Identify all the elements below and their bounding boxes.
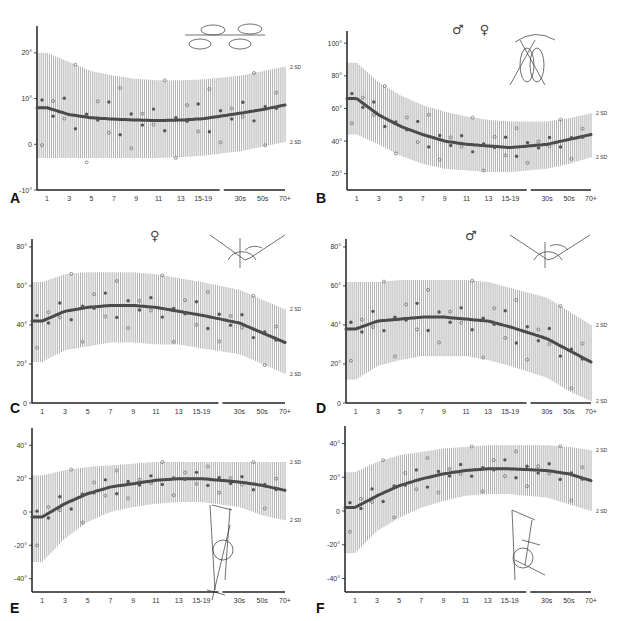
y-tick-label: -10°	[19, 187, 32, 194]
x-tick-label: 7	[112, 195, 116, 202]
chart-e: 40°20°0-20°-40°13579111315-1930s50s70+2 …	[0, 420, 310, 621]
x-tick-label: 5	[399, 195, 403, 202]
x-tick-label: 11	[462, 597, 469, 604]
x-tick-label: 11	[152, 408, 159, 415]
lower-2sd-label: 2 SD	[290, 517, 302, 523]
y-tick-label: -40°	[14, 575, 27, 582]
x-tick-label: 15-19	[193, 597, 211, 604]
x-tick-label: 50s	[257, 408, 269, 415]
y-tick-label: 60°	[331, 105, 342, 112]
y-tick-label: 0	[23, 509, 27, 516]
male-symbol: ♂	[465, 228, 477, 243]
x-tick-label: 15-19	[193, 408, 211, 415]
panel-c: 80°60°40°20°013579111315-1930s50s70+2 SD…	[0, 210, 310, 420]
chart-f: 40°20°0-20°-40°13579111315-1930s50s70+2 …	[310, 420, 619, 621]
panel-label-e: E	[10, 600, 19, 616]
upper-2sd-label: 2 SD	[290, 64, 302, 70]
x-tick-label: 9	[443, 195, 447, 202]
panel-label-b: B	[316, 190, 326, 206]
sex-symbols: ♂ ♀	[452, 22, 495, 37]
x-tick-label: 9	[442, 408, 446, 415]
x-tick-label: 70+	[585, 408, 597, 415]
y-tick-label: -20°	[327, 541, 340, 548]
x-tick-label: 70+	[279, 597, 291, 604]
x-tick-label: 5	[86, 597, 90, 604]
x-tick-label: 3	[377, 195, 381, 202]
upper-2sd-label: 2 SD	[290, 306, 302, 312]
y-tick-label: 0	[336, 508, 340, 515]
sd-band	[346, 280, 591, 401]
x-tick-label: 13	[175, 597, 183, 604]
x-tick-label: 13	[485, 195, 493, 202]
x-tick-label: 9	[134, 195, 138, 202]
y-tick-label: 100°	[328, 40, 343, 47]
x-tick-label: 3	[375, 597, 379, 604]
panel-b: 100°80°60°40°20°13579111315-1930s50s70+2…	[310, 0, 619, 210]
x-tick-label: 30s	[541, 597, 553, 604]
x-tick-label: 1	[40, 408, 44, 415]
x-tick-label: 15-19	[501, 408, 519, 415]
y-tick-label: 0	[337, 400, 341, 407]
hip-internal-rotation-icon	[510, 34, 555, 85]
y-tick-label: 0	[23, 400, 27, 407]
x-tick-label: 5	[398, 408, 402, 415]
transmalleolar-axis-icon	[512, 510, 545, 580]
panel-label-d: D	[316, 400, 326, 416]
x-tick-label: 9	[131, 597, 135, 604]
x-tick-label: 70+	[585, 195, 597, 202]
lower-2sd-label: 2 SD	[290, 371, 302, 377]
upper-2sd-label: 2 SD	[596, 447, 608, 453]
x-tick-label: 1	[355, 195, 359, 202]
x-tick-label: 5	[90, 195, 94, 202]
lower-2sd-label: 2 SD	[596, 154, 608, 160]
x-tick-label: 11	[463, 195, 470, 202]
x-tick-label: 9	[441, 597, 445, 604]
panel-f: 40°20°0-20°-40°13579111315-1930s50s70+2 …	[310, 420, 619, 621]
x-tick-label: 1	[354, 408, 358, 415]
panel-a: 20°10°0-10°13579111315-1930s50s70+2 SD2 …	[0, 0, 310, 210]
x-tick-label: 7	[420, 408, 424, 415]
x-tick-label: 15-19	[501, 597, 519, 604]
x-tick-label: 30s	[541, 195, 553, 202]
y-tick-label: 40°	[331, 138, 342, 145]
panel-label-c: C	[10, 400, 20, 416]
x-tick-label: 11	[462, 408, 469, 415]
x-tick-label: 13	[177, 195, 185, 202]
x-tick-label: 50s	[563, 597, 575, 604]
y-tick-label: 20°	[330, 360, 341, 367]
y-tick-label: 40°	[16, 442, 27, 449]
y-tick-label: -40°	[327, 575, 340, 582]
x-tick-label: 15-19	[194, 195, 212, 202]
x-tick-label: 50s	[563, 195, 575, 202]
x-tick-label: 1	[40, 597, 44, 604]
panel-label-f: F	[316, 600, 325, 616]
upper-2sd-label: 2 SD	[290, 459, 302, 465]
x-tick-label: 13	[484, 597, 492, 604]
panel-e: 40°20°0-20°-40°13579111315-1930s50s70+2 …	[0, 420, 310, 621]
hip-external-rotation-icon	[210, 235, 285, 268]
panel-label-a: A	[10, 190, 20, 206]
lower-2sd-label: 2 SD	[596, 508, 608, 514]
x-tick-label: 5	[86, 408, 90, 415]
x-tick-label: 3	[63, 597, 67, 604]
chart-a: 20°10°0-10°13579111315-1930s50s70+2 SD2 …	[0, 0, 310, 210]
female-symbol: ♀	[150, 228, 160, 243]
x-tick-label: 3	[67, 195, 71, 202]
x-tick-label: 9	[131, 408, 135, 415]
y-tick-label: 20°	[329, 474, 340, 481]
y-tick-label: 80°	[330, 243, 341, 250]
x-tick-label: 7	[421, 195, 425, 202]
y-tick-label: 0	[28, 141, 32, 148]
y-tick-label: 20°	[21, 49, 32, 56]
thigh-foot-angle-icon	[207, 505, 233, 600]
y-tick-label: 40°	[330, 321, 341, 328]
x-tick-label: 1	[353, 597, 357, 604]
x-tick-label: 70+	[279, 408, 291, 415]
panel-d: 80°60°40°20°013579111315-1930s50s70+2 SD…	[310, 210, 619, 420]
x-tick-label: 7	[419, 597, 423, 604]
x-tick-label: 15-19	[502, 195, 520, 202]
x-tick-label: 3	[376, 408, 380, 415]
upper-2sd-label: 2 SD	[596, 110, 608, 116]
x-tick-label: 3	[63, 408, 67, 415]
x-tick-label: 50s	[257, 195, 269, 202]
